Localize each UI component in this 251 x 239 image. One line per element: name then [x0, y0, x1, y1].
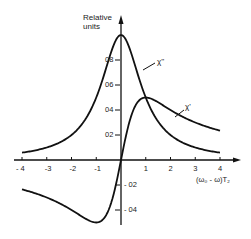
x-tick-label: 1 — [144, 165, 148, 173]
x-tick-label: 4 — [218, 165, 222, 173]
x-tick-label: 2 — [169, 165, 173, 173]
series-label-chi-double-prime: χ'' — [157, 58, 164, 66]
label-leaders — [143, 63, 184, 117]
y-tick-label: 02 — [105, 131, 113, 139]
x-tick-label: - 4 — [16, 165, 25, 173]
y-tick-label: 06 — [105, 81, 113, 89]
y-tick-label: 04 — [105, 106, 113, 114]
x-tick-label: -3 — [45, 165, 52, 173]
y-axis-label: Relative units — [83, 13, 112, 31]
resonance-chart — [0, 0, 251, 239]
leader-chi-double-prime — [143, 63, 155, 70]
series-label-chi-prime: χ' — [185, 103, 191, 111]
x-axis-arrow-icon — [233, 158, 241, 163]
x-tick-label: -1 — [94, 165, 101, 173]
y-tick-label: - 02 — [124, 181, 137, 189]
y-tick-label: - 04 — [124, 206, 137, 214]
y-axis-arrow-icon — [119, 15, 124, 24]
y-tick-label: 08 — [105, 56, 113, 64]
y-axis-label-line1: Relative — [83, 13, 112, 22]
x-axis-label: (ω₀ - ω)T₂ — [196, 176, 230, 184]
x-tick-label: 3 — [193, 165, 197, 173]
axes — [14, 15, 241, 225]
y-axis-label-line2: units — [83, 22, 112, 31]
x-tick-label: -2 — [70, 165, 77, 173]
